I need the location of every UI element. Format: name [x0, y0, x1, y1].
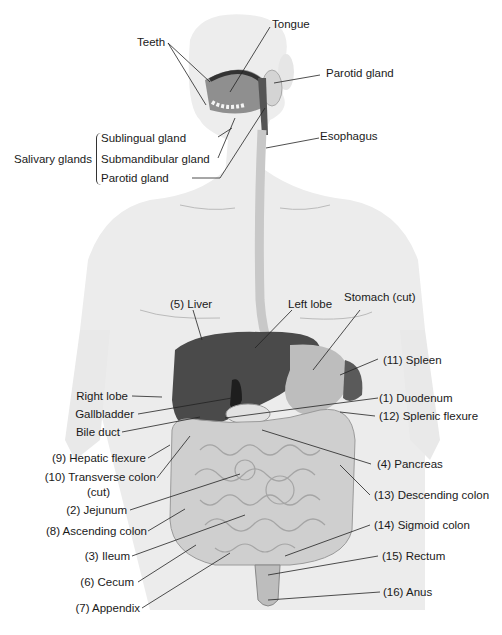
label-jejunum: (2) Jejunum [66, 504, 127, 517]
label-stomach: Stomach (cut) [344, 291, 416, 304]
label-liver: (5) Liver [170, 298, 212, 311]
label-esophagus: Esophagus [320, 130, 378, 143]
label-appendix: (7) Appendix [75, 602, 140, 615]
label-duodenum: (1) Duodenum [379, 392, 453, 405]
label-tongue: Tongue [272, 18, 310, 31]
label-bile-duct: Bile duct [76, 426, 120, 439]
label-left-lobe: Left lobe [288, 298, 332, 311]
label-ileum: (3) Ileum [85, 550, 130, 563]
label-submandibular-gland: Submandibular gland [101, 153, 210, 166]
label-parotid-gland-left: Parotid gland [101, 172, 169, 185]
label-teeth: Teeth [137, 36, 165, 49]
label-transverse-colon-cut: (cut) [87, 486, 110, 499]
label-right-lobe: Right lobe [76, 390, 128, 403]
label-sublingual-gland: Sublingual gland [101, 132, 186, 145]
label-rectum: (15) Rectum [382, 550, 445, 563]
label-transverse-colon: (10) Transverse colon [45, 471, 156, 484]
label-gallbladder: Gallbladder [75, 408, 134, 421]
label-ascending-colon: (8) Ascending colon [46, 525, 147, 538]
label-descending-colon: (13) Descending colon [374, 489, 489, 502]
anatomy-illustration [0, 0, 502, 635]
label-cecum: (6) Cecum [80, 576, 134, 589]
label-parotid-gland-right: Parotid gland [326, 67, 394, 80]
label-salivary-glands: Salivary glands [14, 153, 92, 166]
label-splenic-flexure: (12) Splenic flexure [379, 410, 478, 423]
label-pancreas: (4) Pancreas [377, 458, 443, 471]
label-hepatic-flexure: (9) Hepatic flexure [52, 452, 146, 465]
label-anus: (16) Anus [383, 586, 432, 599]
label-spleen: (11) Spleen [383, 354, 442, 367]
label-sigmoid-colon: (14) Sigmoid colon [374, 519, 470, 532]
digestive-system-diagram: Tongue Teeth Parotid gland Esophagus Sal… [0, 0, 502, 635]
